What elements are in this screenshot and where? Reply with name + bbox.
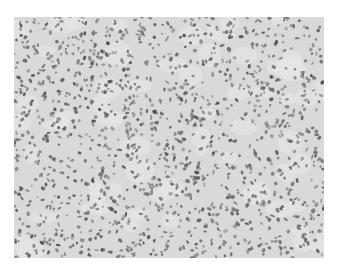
tissue-texture <box>14 17 324 258</box>
histology-micrograph <box>14 17 324 258</box>
